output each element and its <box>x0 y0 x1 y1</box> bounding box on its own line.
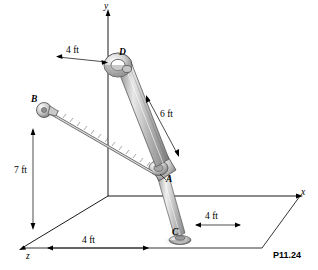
dim-top-left-line <box>58 57 106 62</box>
axis-label-x: x <box>301 188 305 198</box>
dim-label-bar: 6 ft <box>160 110 173 120</box>
point-label-a: A <box>166 175 172 185</box>
point-label-c: C <box>172 228 178 238</box>
ground-plane <box>22 196 300 248</box>
ground-right-edge <box>262 196 300 248</box>
dim-label-top-left: 4 ft <box>66 46 79 56</box>
axis-label-z: z <box>26 252 30 262</box>
joint-b <box>37 103 59 118</box>
dim-label-bottom-left: 4 ft <box>82 236 95 246</box>
pivot-d <box>104 53 132 77</box>
mechanism-diagram <box>0 0 318 270</box>
point-label-d: D <box>119 48 126 58</box>
axis-label-y: y <box>104 2 108 12</box>
figure-container: y x z D B A C 4 ft 6 ft 7 ft 4 ft 4 ft P… <box>0 0 318 270</box>
cable-BA <box>50 110 152 172</box>
z-axis-line <box>22 196 108 248</box>
dim-label-bottom-right: 4 ft <box>205 212 218 222</box>
figure-tag: P11.24 <box>273 251 301 260</box>
dim-label-vertical: 7 ft <box>14 166 27 176</box>
axis-arrowheads <box>19 9 303 250</box>
point-label-b: B <box>31 95 37 105</box>
axis-lines <box>22 12 300 248</box>
